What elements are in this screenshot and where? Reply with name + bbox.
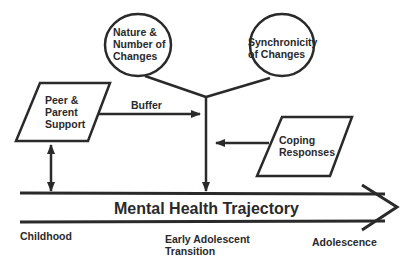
node-peer-line-2: Parent — [45, 106, 78, 118]
stage-childhood: Childhood — [20, 230, 72, 242]
buffer-edge: Buffer — [99, 99, 200, 114]
node-peer-parent-support: Peer & Parent Support — [16, 83, 110, 141]
node-synchronicity-of-changes: Synchronicity of Changes — [248, 14, 318, 76]
stage-early-adolescent: Early Adolescent — [165, 233, 250, 245]
trajectory-arrow: Mental Health Trajectory — [20, 185, 397, 230]
node-coping-line-2: Responses — [279, 146, 335, 158]
node-synchronicity-line-1: Synchronicity — [248, 36, 318, 48]
node-coping-line-1: Coping — [279, 134, 315, 146]
stage-transition: Transition — [165, 245, 215, 257]
node-peer-line-3: Support — [45, 118, 86, 130]
stage-adolescence: Adolescence — [312, 236, 377, 248]
node-nature-line-1: Nature & — [113, 26, 157, 38]
node-coping-responses: Coping Responses — [257, 117, 352, 176]
node-synchronicity-line-2: of Changes — [248, 48, 305, 60]
node-peer-line-1: Peer & — [45, 94, 79, 106]
trajectory-label: Mental Health Trajectory — [114, 200, 299, 217]
node-nature-line-2: Number of — [113, 38, 166, 50]
diagram-canvas: Nature & Number of Changes Synchronicity… — [0, 0, 409, 268]
converging-connector — [145, 76, 270, 191]
buffer-label: Buffer — [131, 99, 162, 111]
node-nature-line-3: Changes — [113, 50, 158, 62]
node-nature-number-of-changes: Nature & Number of Changes — [105, 14, 171, 76]
diagram-svg: Nature & Number of Changes Synchronicity… — [0, 0, 409, 268]
